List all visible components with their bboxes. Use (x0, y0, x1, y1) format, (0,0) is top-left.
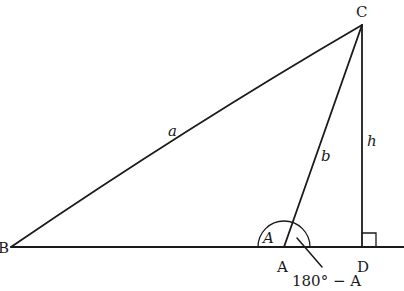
side-label-a: a (168, 122, 177, 140)
right-angle-marker (362, 233, 376, 247)
side-a-line (11, 25, 362, 247)
vertex-label-a: A (276, 258, 288, 276)
vertex-label-c: C (356, 3, 367, 21)
angle-label-exterior: 180° − A (292, 272, 361, 290)
vertex-label-b: B (0, 239, 9, 257)
side-b-line (284, 25, 362, 247)
side-label-h: h (367, 132, 377, 150)
angle-label-interior: A (261, 229, 274, 247)
side-label-b: b (321, 147, 331, 165)
triangle-diagram: B C A D a b h A 180° − A (0, 0, 404, 291)
